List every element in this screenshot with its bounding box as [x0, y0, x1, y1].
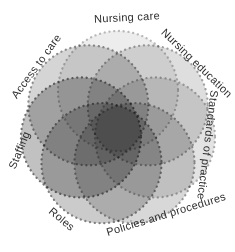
venn-circles-canvas — [0, 0, 235, 252]
venn-diagram-figure: Nursing care Nursing education Standards… — [0, 0, 235, 252]
circle-access-to-care — [28, 45, 148, 165]
